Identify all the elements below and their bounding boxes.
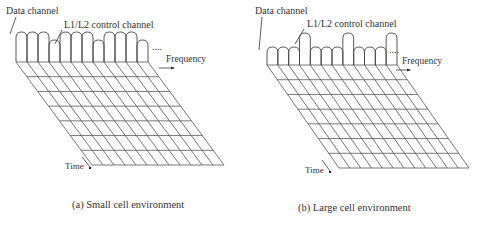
ellipsis: .... <box>152 41 162 52</box>
grid-column-line <box>278 65 350 168</box>
data-channel-label: Data channel <box>255 5 308 16</box>
channel-arch-short <box>332 47 343 65</box>
caption-b: (b) Large cell environment <box>298 202 411 214</box>
grid-column-line <box>300 65 372 168</box>
grid-column-line <box>289 65 361 168</box>
grid-column-line <box>60 62 136 165</box>
control-channel-label: L1/L2 control channel <box>307 18 397 29</box>
grid-column-line <box>82 62 158 165</box>
panel-large-cell: Data channel L1/L2 control channel .... … <box>255 5 469 214</box>
time-frequency-grid <box>267 65 469 168</box>
grid-column-line <box>71 62 147 165</box>
channel-arch-tall <box>27 32 38 62</box>
grid-column-line <box>375 65 447 168</box>
grid-column-line <box>27 62 103 165</box>
channel-arch-short <box>375 47 386 65</box>
grid-column-line <box>16 62 92 165</box>
time-arrowhead <box>89 167 91 169</box>
time-axis-label: Time <box>305 165 324 175</box>
time-arrowhead <box>329 171 331 173</box>
ellipsis: .... <box>389 44 399 55</box>
channel-arch-short <box>267 47 278 65</box>
channel-arch-tall <box>115 32 126 62</box>
channel-arch-short <box>49 40 60 62</box>
channel-arch-tall <box>343 33 354 65</box>
channel-arch-tall <box>300 33 311 65</box>
grid-column-line <box>397 65 469 168</box>
channel-arch-tall <box>82 32 93 62</box>
channel-arches <box>16 32 148 62</box>
channel-arch-tall <box>104 32 115 62</box>
grid-column-line <box>93 62 169 165</box>
grid-column-line <box>310 65 382 168</box>
grid-column-line <box>343 65 415 168</box>
frequency-axis-label: Frequency <box>402 56 442 66</box>
grid-column-line <box>38 62 114 165</box>
grid-column-line <box>332 65 404 168</box>
grid-column-line <box>354 65 426 168</box>
channel-arch-short <box>354 47 365 65</box>
grid-column-line <box>386 65 458 168</box>
grid-column-line <box>104 62 180 165</box>
grid-column-line <box>115 62 191 165</box>
grid-column-line <box>365 65 437 168</box>
grid-column-line <box>137 62 213 165</box>
data-channel-label: Data channel <box>6 5 59 16</box>
frequency-arrowhead <box>171 67 175 70</box>
channel-arch-tall <box>71 32 82 62</box>
channel-arch-short <box>321 47 332 65</box>
grid-column-line <box>126 62 202 165</box>
control-channel-label: L1/L2 control channel <box>64 19 154 30</box>
grid-column-line <box>267 65 339 168</box>
channel-arch-tall <box>38 32 49 62</box>
channel-arch-tall <box>60 32 71 62</box>
grid-column-line <box>49 62 125 165</box>
channel-arch-tall <box>16 32 27 62</box>
grid-column-line <box>148 62 224 165</box>
grid-column-line <box>321 65 393 168</box>
caption-a: (a) Small cell environment <box>72 199 184 211</box>
frequency-arrowhead <box>407 69 411 72</box>
channel-arch-short <box>137 40 148 62</box>
channel-arch-short <box>93 40 104 62</box>
time-frequency-grid <box>16 62 224 165</box>
channel-arch-short <box>289 47 300 65</box>
channel-arch-short <box>365 47 376 65</box>
frequency-axis-label: Frequency <box>166 54 206 64</box>
data-channel-pointer <box>259 17 262 50</box>
channel-arches <box>267 33 397 65</box>
channel-arch-tall <box>126 32 137 62</box>
figure: Data channel L1/L2 control channel .... … <box>0 0 477 228</box>
data-channel-pointer <box>10 17 16 34</box>
channel-arch-short <box>310 47 321 65</box>
time-axis-label: Time <box>65 161 84 171</box>
panel-small-cell: Data channel L1/L2 control channel .... … <box>6 5 224 211</box>
channel-arch-short <box>278 47 289 65</box>
